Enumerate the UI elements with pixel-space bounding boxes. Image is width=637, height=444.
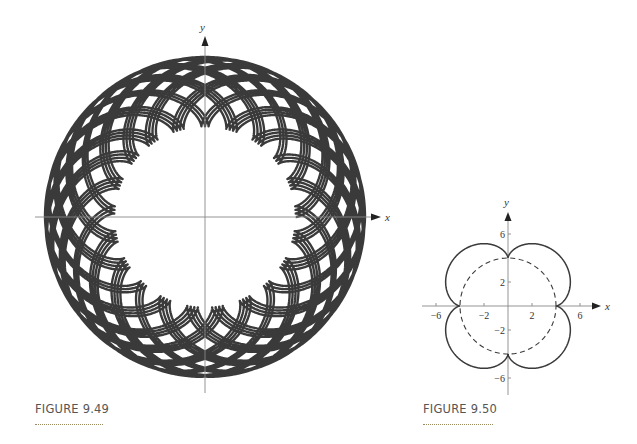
figure-caption-9-50: FIGURE 9.50 [423, 402, 497, 416]
y-axis-arrow-icon [505, 212, 512, 221]
figure-9-50-plot: x y −6−22662−2−6 [422, 196, 610, 395]
x-tick-label: 2 [530, 310, 535, 321]
figure-9-49-plot: x y [35, 21, 390, 393]
x-axis-arrow-icon [592, 303, 601, 310]
y-tick-label: 6 [500, 229, 505, 240]
x-axis-label: x [604, 300, 610, 312]
y-tick-label: −2 [494, 325, 505, 336]
y-axis-label: y [503, 196, 509, 208]
y-tick-label: −6 [494, 373, 505, 384]
y-axis-arrow-icon [202, 36, 209, 46]
figures-canvas: x y x y −6−22662−2−6 [0, 0, 637, 444]
x-axis-label: x [384, 211, 390, 223]
x-tick-label: −2 [479, 310, 490, 321]
x-axis-arrow-icon [371, 214, 381, 221]
y-axis-label: y [199, 21, 205, 33]
caption-underline [423, 424, 493, 425]
y-tick-label: 2 [500, 277, 505, 288]
figure-caption-9-49: FIGURE 9.49 [35, 402, 109, 416]
x-tick-label: −6 [431, 310, 442, 321]
x-tick-label: 6 [578, 310, 583, 321]
caption-underline [35, 424, 103, 425]
